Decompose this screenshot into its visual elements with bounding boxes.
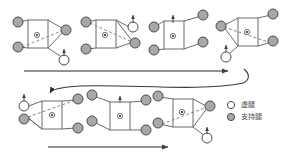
pose-4-leg-right-front: [268, 9, 278, 19]
pose-1-leg-left-front: [13, 17, 23, 27]
pose-2-leg-left-rear: [81, 44, 91, 54]
gait-sequence-diagram: 虚腿 支持腿: [0, 0, 283, 159]
legend-label-support-leg: 支持腿: [241, 112, 262, 121]
pose-2-leg-right-front: [128, 22, 138, 32]
pose-4-leg-left-rear: [221, 52, 231, 62]
legend-label-swing-leg: 虚腿: [241, 100, 255, 109]
pose-4-center-marker: [244, 29, 249, 34]
pose-1-leg-left-rear: [13, 42, 23, 52]
pose-7-leg-left-rear: [153, 118, 163, 128]
open-circle-icon: [227, 101, 234, 108]
pose-6-leg-left-rear: [87, 116, 97, 126]
pose-3-body: [156, 16, 201, 50]
pose-3: [149, 10, 208, 55]
legend: 虚腿 支持腿: [227, 100, 262, 121]
pose-3-center-marker: [170, 33, 175, 38]
pose-7: [153, 91, 215, 143]
pose-1-leg-right-front: [61, 25, 71, 35]
pose-7-diagonal: [162, 107, 207, 124]
pose-5-center-marker: [49, 112, 54, 117]
pose-4-leg-right-rear: [268, 36, 278, 46]
pose-6-leg-right-rear: [141, 125, 151, 135]
pose-2-leg-left-front: [81, 17, 91, 27]
pose-7-leg-right-rear: [202, 133, 212, 143]
pose-2: [81, 15, 140, 54]
pose-4-body: [223, 15, 271, 55]
row-wrap-connector-arrow: [50, 69, 248, 93]
legend-item-swing-leg: 虚腿: [227, 100, 255, 109]
pose-6: [87, 90, 151, 135]
pose-7-leg-right-front: [205, 101, 215, 111]
pose-5: [19, 94, 83, 133]
filled-circle-icon: [227, 113, 234, 120]
pose-7-leg-left-front: [153, 91, 163, 101]
pose-1-leg-right-rear: [59, 55, 69, 65]
pose-3-leg-left-rear: [149, 45, 159, 55]
pose-3-leg-right-rear: [198, 37, 208, 47]
pose-6-leg-left-front: [87, 90, 97, 100]
pose-1: [13, 17, 71, 65]
pose-4-leg-left-front: [216, 21, 226, 31]
pose-2-center-marker: [102, 32, 107, 37]
pose-5-leg-right-rear: [73, 123, 83, 133]
pose-3-leg-left-front: [149, 22, 159, 32]
pose-5-leg-left-front: [19, 101, 29, 111]
pose-6-center-marker: [117, 113, 122, 118]
pose-7-body: [160, 97, 208, 136]
legend-item-support-leg: 支持腿: [227, 112, 262, 121]
pose-3-leg-right-front: [198, 10, 208, 20]
pose-5-leg-left-rear: [19, 114, 29, 124]
pose-5-leg-right-front: [73, 94, 83, 104]
pose-6-body: [94, 96, 144, 130]
pose-2-leg-right-rear: [130, 38, 140, 48]
pose-1-center-marker: [34, 32, 39, 37]
pose-6-leg-right-front: [141, 95, 151, 105]
diagram-canvas: 虚腿 支持腿: [0, 0, 283, 159]
pose-7-center-marker: [179, 109, 184, 114]
pose-4: [216, 9, 278, 62]
pose-2-body: [88, 20, 133, 49]
